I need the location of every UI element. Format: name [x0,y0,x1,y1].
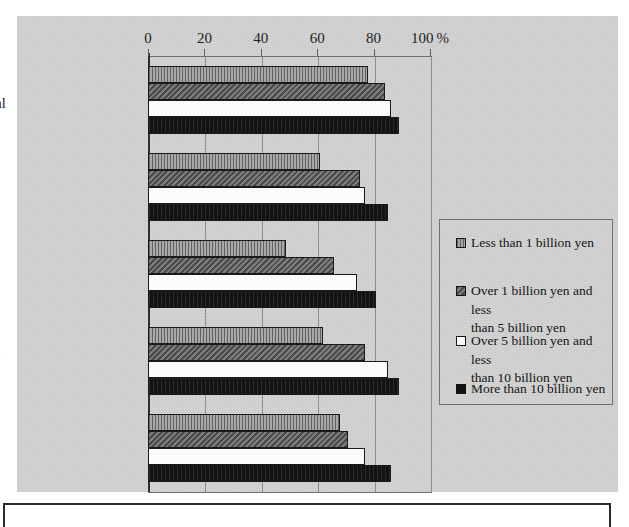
category-label: Acquisition ofsoftware [0,169,17,208]
category-label: Softwaredevelopment [0,256,17,295]
legend-label-line: Less than 1 billion yen [471,234,594,253]
x-axis-tick-mark [317,49,318,56]
legend-label-line: Over 5 billion yen and less [471,332,606,369]
bar [148,327,323,344]
category-label-line: Acquisition of [0,169,17,189]
legend-label-line: More than 10 billion yen [471,380,605,399]
x-axis-tick-mark [430,49,431,56]
category-label: Acquisition ofcomputer/peripheraldevices [0,75,17,134]
x-axis-tick-value: 60 [310,30,325,46]
gridline [431,57,432,492]
x-axis-tick-label: 20 [197,30,212,47]
x-axis-tick-label: 60 [310,30,325,47]
x-axis-tick-mark [148,49,149,56]
legend-item[interactable]: Over 1 billion yen and lessthan 5 billio… [456,282,606,338]
legend-item[interactable]: More than 10 billion yen [456,380,606,399]
bar [148,117,399,134]
legend-swatch-icon [456,336,466,346]
legend-label: Over 1 billion yen and lessthan 5 billio… [471,282,606,338]
legend-swatch-icon [456,238,466,248]
x-axis-tick-mark [204,49,205,56]
bar [148,414,340,431]
category-label: Network build-up [0,437,17,457]
bar [148,274,357,291]
bar [148,100,391,117]
legend-label-line: Over 1 billion yen and less [471,282,606,319]
category-label-line: computer/peripheral [0,94,17,114]
bar [148,378,399,395]
legend-swatch-icon [456,286,466,296]
x-axis-tick-value: 80 [366,30,381,46]
bar [148,204,388,221]
x-axis-tick-label: 100% [411,30,449,47]
x-axis-tick-label: 40 [253,30,268,47]
legend-swatch-icon [456,384,466,394]
x-axis-tick-value: 40 [253,30,268,46]
category-label-line: Acquisition of [0,75,17,95]
category-label: Systems operationand development [0,343,17,382]
category-label-line: software [0,188,17,208]
bar [148,240,286,257]
x-axis-tick-value: 100 [411,30,434,46]
category-label-line: and development [0,362,17,382]
bar [148,153,320,170]
bar [148,291,376,308]
bar [148,170,360,187]
legend-label: More than 10 billion yen [471,380,605,399]
x-axis-unit-label: % [437,30,450,46]
bar [148,361,388,378]
bar [148,448,365,465]
bar [148,66,368,83]
x-axis-tick-label: 0 [144,30,152,47]
category-label-line: Systems operation [0,343,17,363]
category-label-line: Software [0,256,17,276]
x-axis-tick-value: 0 [144,30,152,46]
x-axis-tick-label: 80 [366,30,381,47]
x-axis-tick-value: 20 [197,30,212,46]
legend-item[interactable]: Less than 1 billion yen [456,234,606,253]
bar [148,187,365,204]
bar [148,257,334,274]
legend-label: Less than 1 billion yen [471,234,594,253]
page-bottom-rule [3,503,611,527]
scanned-page: 020406080100% Acquisition ofcomputer/per… [0,0,629,527]
bar [148,431,348,448]
chart-legend: Less than 1 billion yenOver 1 billion ye… [439,219,613,405]
x-axis-tick-mark [261,49,262,56]
category-label-line: development [0,275,17,295]
category-label-line: Network build-up [0,437,17,457]
bar [148,344,365,361]
grouped-bar-chart: 020406080100% Acquisition ofcomputer/per… [17,16,618,492]
bar [148,83,385,100]
bar [148,465,391,482]
x-axis-tick-mark [374,49,375,56]
category-label-line: devices [0,114,17,134]
